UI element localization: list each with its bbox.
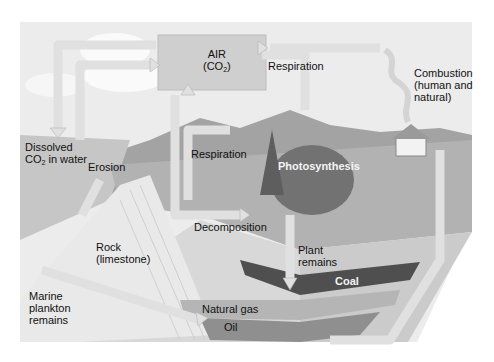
photosynthesis-label: Photosynthesis xyxy=(278,160,360,172)
dissolved-co2-label: Dissolved CO2 in water xyxy=(25,141,87,169)
decomposition-label: Decomposition xyxy=(194,221,267,233)
erosion-label: Erosion xyxy=(88,161,125,173)
respiration-top-label: Respiration xyxy=(268,60,324,72)
coal-label: Coal xyxy=(335,275,359,287)
plant-remains-label: Plant remains xyxy=(298,244,337,268)
natural-gas-label: Natural gas xyxy=(202,303,258,315)
combustion-label: Combustion (human and natural) xyxy=(414,67,473,103)
air-label: AIR (CO2) xyxy=(203,48,231,76)
oil-label: Oil xyxy=(224,321,237,333)
rock-limestone-label: Rock (limestone) xyxy=(96,241,150,265)
tree-canopy xyxy=(270,145,354,215)
marine-plankton-label: Marine plankton remains xyxy=(29,290,71,326)
respiration-animals-label: Respiration xyxy=(191,148,247,160)
